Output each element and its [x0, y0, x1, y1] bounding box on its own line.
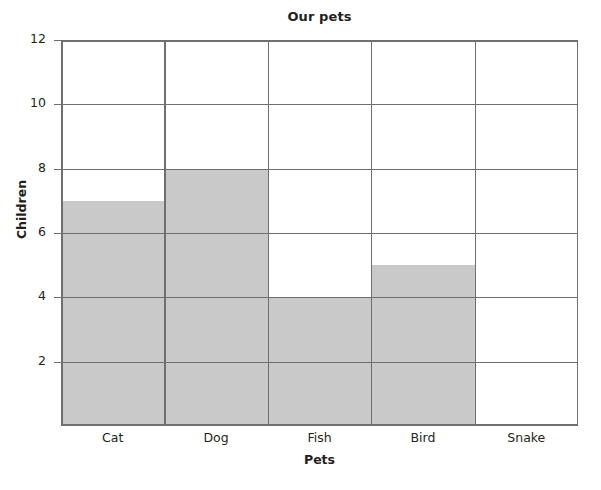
plot-area [61, 40, 578, 426]
gridline-x-2 [268, 40, 269, 426]
y-tick-label-4: 4 [0, 290, 46, 303]
y-tick-mark-12 [54, 40, 61, 41]
gridline-y-2 [61, 362, 578, 363]
y-tick-mark-2 [54, 362, 61, 363]
y-tick-mark-8 [54, 169, 61, 170]
axis-frame-top [61, 40, 578, 42]
y-tick-mark-10 [54, 104, 61, 105]
x-tick-label-fish: Fish [268, 432, 371, 445]
gridline-x-4 [475, 40, 476, 426]
bar-bird [371, 265, 474, 426]
y-tick-label-6: 6 [0, 226, 46, 239]
bar-cat [61, 201, 164, 426]
x-tick-label-dog: Dog [164, 432, 267, 445]
chart-title: Our pets [61, 9, 578, 24]
y-tick-label-2: 2 [0, 355, 46, 368]
y-tick-label-10: 10 [0, 97, 46, 110]
x-tick-label-cat: Cat [61, 432, 164, 445]
axis-frame-left [61, 40, 63, 426]
bar-chart-figure: Our pets Children Pets 24681012 CatDogFi… [0, 0, 601, 490]
y-tick-label-12: 12 [0, 33, 46, 46]
x-axis-label: Pets [61, 452, 578, 467]
gridline-x-1 [164, 40, 165, 426]
y-tick-mark-4 [54, 297, 61, 298]
gridline-y-8 [61, 169, 578, 170]
axis-frame-bottom [61, 424, 578, 426]
x-tick-label-bird: Bird [371, 432, 474, 445]
x-tick-label-snake: Snake [475, 432, 578, 445]
gridline-x-3 [371, 40, 372, 426]
gridline-y-6 [61, 233, 578, 234]
y-tick-mark-6 [54, 233, 61, 234]
gridline-y-4 [61, 297, 578, 298]
y-tick-label-8: 8 [0, 162, 46, 175]
axis-frame-right [577, 40, 579, 426]
gridline-y-10 [61, 104, 578, 105]
